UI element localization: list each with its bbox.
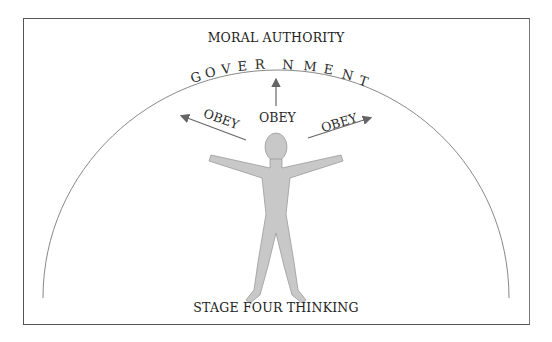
arc-letter: N	[282, 57, 294, 73]
arc-letter: E	[322, 61, 334, 77]
human-figure-icon	[209, 133, 343, 303]
diagram-canvas: G O V E R N M E N T OBEY OBEY OBEY	[0, 0, 552, 342]
arc-letter: N	[340, 66, 355, 83]
arrow-label-center: OBEY	[259, 110, 297, 125]
arc-letter: G	[189, 69, 203, 86]
arc-letter: V	[219, 61, 232, 77]
arc-letter: T	[357, 73, 370, 90]
arc-letter: E	[237, 58, 248, 74]
arc-label-government: G O V E R N M E N T	[189, 57, 371, 90]
arc-letter: O	[204, 64, 218, 81]
arc-letter: M	[303, 58, 318, 74]
arrow-label-left: OBEY	[202, 105, 242, 132]
arrow-label-right: OBEY	[319, 110, 359, 135]
arc-letter: R	[255, 57, 267, 72]
diagram-caption: STAGE FOUR THINKING	[0, 300, 552, 315]
